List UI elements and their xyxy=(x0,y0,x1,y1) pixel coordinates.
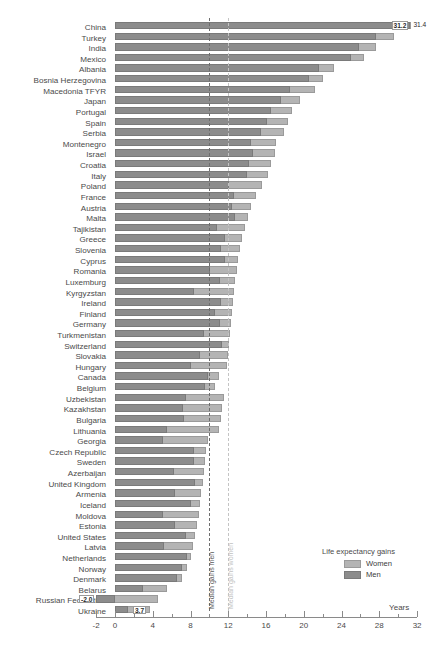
bar-segment-men xyxy=(115,564,182,571)
chart-row: Azerbaijan xyxy=(0,468,435,479)
axis-tick-label: 20 xyxy=(292,621,316,630)
chart-row: Israel xyxy=(0,149,435,160)
chart-row: Poland xyxy=(0,181,435,192)
bar-segment-men xyxy=(115,266,210,273)
axis-tick-label: 16 xyxy=(254,621,278,630)
axis-tick-minor xyxy=(247,614,248,618)
bar-segment-men xyxy=(115,447,194,454)
bar-value-label-women: 31.4 xyxy=(413,21,426,30)
chart-row: Cyprus xyxy=(0,256,435,267)
country-label: Israel xyxy=(0,149,106,160)
bar-segment-men xyxy=(115,521,175,528)
axis-tick-minor xyxy=(209,614,210,618)
bar-segment-men xyxy=(115,383,205,390)
chart-row: Portugal xyxy=(0,107,435,118)
legend-item-women: Women xyxy=(344,559,395,568)
country-label: Switzerland xyxy=(0,341,106,352)
country-label: Bulgaria xyxy=(0,415,106,426)
country-label: Turkey xyxy=(0,33,106,44)
country-label: Mexico xyxy=(0,54,106,65)
axis-tick-label: 0 xyxy=(103,621,127,630)
chart-row: Spain xyxy=(0,118,435,129)
country-label: Kazakhstan xyxy=(0,404,106,415)
bar-segment-men xyxy=(96,595,115,602)
chart-row: Armenia xyxy=(0,489,435,500)
country-label: Turkmenistan xyxy=(0,330,106,341)
country-label: Portugal xyxy=(0,107,106,118)
country-label: United States xyxy=(0,532,106,543)
country-label: Malta xyxy=(0,213,106,224)
bar-segment-men xyxy=(115,542,164,549)
bar-segment-men xyxy=(115,33,376,40)
country-label: Japan xyxy=(0,96,106,107)
bar-segment-men xyxy=(115,192,234,199)
bar-segment-men xyxy=(115,500,191,507)
country-label: Bosnia Herzegovina xyxy=(0,75,106,86)
chart-row: Turkmenistan xyxy=(0,330,435,341)
country-label: Sweden xyxy=(0,457,106,468)
chart-row: Sweden xyxy=(0,457,435,468)
chart-row: Japan xyxy=(0,96,435,107)
axis-tick xyxy=(153,611,154,617)
life-expectancy-gains-chart: China31.231.4TurkeyIndiaMexicoAlbaniaBos… xyxy=(0,0,435,648)
country-label: Germany xyxy=(0,319,106,330)
country-label: Cyprus xyxy=(0,256,106,267)
bar-segment-men xyxy=(115,372,208,379)
country-label: Ireland xyxy=(0,298,106,309)
chart-row: Iceland xyxy=(0,500,435,511)
country-label: Romania xyxy=(0,266,106,277)
bar-segment-men xyxy=(115,351,200,358)
bar-segment-men xyxy=(115,139,251,146)
bar-segment-men xyxy=(115,319,220,326)
chart-row: Moldova xyxy=(0,511,435,522)
country-label: Greece xyxy=(0,234,106,245)
axis-tick xyxy=(379,611,380,617)
bar-segment-men xyxy=(115,86,290,93)
country-label: Denmark xyxy=(0,574,106,585)
chart-row: Croatia xyxy=(0,160,435,171)
chart-row: Lithuania xyxy=(0,426,435,437)
country-label: Ukraine xyxy=(0,606,106,617)
legend-label-women: Women xyxy=(366,559,392,568)
legend-label-men: Men xyxy=(366,570,381,579)
bar-segment-men xyxy=(115,75,309,82)
axis-tick-minor xyxy=(398,614,399,618)
bar-segment-men xyxy=(115,330,204,337)
axis-tick-label: 8 xyxy=(179,621,203,630)
axis-tick-label: 12 xyxy=(216,621,240,630)
chart-row: Kazakhstan xyxy=(0,404,435,415)
chart-row: Slovenia xyxy=(0,245,435,256)
bar-segment-men xyxy=(115,362,191,369)
axis-tick xyxy=(96,611,97,617)
bar-segment-men xyxy=(115,203,232,210)
axis-tick-label: 4 xyxy=(141,621,165,630)
legend-title: Life expectancy gains xyxy=(322,547,395,556)
chart-row: Germany xyxy=(0,319,435,330)
bar-segment-men xyxy=(115,489,175,496)
median-label-men: Median gains men xyxy=(208,552,215,609)
bar-segment-men xyxy=(115,553,187,560)
axis-tick xyxy=(304,611,305,617)
chart-row: Ukraine3.7 xyxy=(0,606,435,617)
bar-segment-men xyxy=(115,606,128,613)
axis-units-label: Years xyxy=(389,603,409,612)
bar-segment-men xyxy=(115,54,351,61)
axis-tick-minor xyxy=(360,614,361,618)
chart-row: Macedonia TFYR xyxy=(0,86,435,97)
country-label: Tajikistan xyxy=(0,224,106,235)
chart-row: United States xyxy=(0,532,435,543)
bar-segment-men xyxy=(115,457,194,464)
chart-row: Belarus xyxy=(0,585,435,596)
country-label: Croatia xyxy=(0,160,106,171)
country-label: Montenegro xyxy=(0,139,106,150)
chart-row: Turkey xyxy=(0,33,435,44)
bar-segment-men xyxy=(115,277,220,284)
axis-tick-minor xyxy=(323,614,324,618)
axis-tick-label: 24 xyxy=(330,621,354,630)
bar-segment-men xyxy=(115,298,221,305)
bar-segment-men xyxy=(115,213,235,220)
country-label: Czech Republic xyxy=(0,447,106,458)
axis-tick xyxy=(266,611,267,617)
legend-item-men: Men xyxy=(344,570,395,579)
bar-segment-men xyxy=(115,118,267,125)
